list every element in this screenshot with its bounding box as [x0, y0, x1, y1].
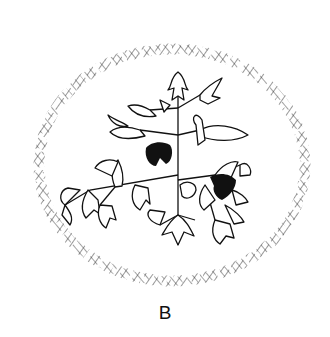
figure-panel: B — [0, 0, 330, 337]
plant-illustration — [0, 0, 330, 337]
panel-label: B — [0, 302, 330, 324]
